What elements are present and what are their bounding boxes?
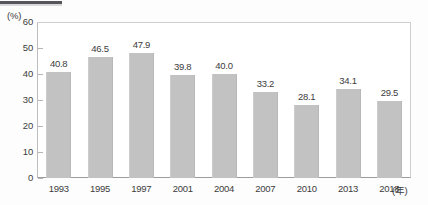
bar-value-label: 29.5 bbox=[369, 87, 409, 98]
y-axis-tick-label: 60 bbox=[0, 16, 33, 27]
bar-value-label: 28.1 bbox=[287, 91, 327, 102]
bar-value-label: 40.0 bbox=[204, 60, 244, 71]
bar bbox=[129, 53, 154, 178]
x-axis-tick-label: 1993 bbox=[39, 183, 79, 194]
y-axis-tick-label-text: 30 bbox=[5, 94, 33, 105]
y-axis-tick-label: 50 bbox=[0, 42, 33, 53]
bar bbox=[46, 72, 71, 178]
x-axis-tick-label: 2004 bbox=[204, 183, 244, 194]
bar bbox=[336, 89, 361, 178]
y-axis-tick bbox=[38, 48, 43, 49]
bar-value-label: 46.5 bbox=[80, 43, 120, 54]
bar bbox=[294, 105, 319, 178]
y-axis-tick-label: 0 bbox=[0, 172, 33, 183]
x-axis-unit-label: (年) bbox=[392, 183, 407, 197]
y-axis-tick-label-text: 50 bbox=[5, 42, 33, 53]
x-axis-tick-label: 1995 bbox=[80, 183, 120, 194]
y-axis-tick bbox=[38, 152, 43, 153]
bar-value-label: 34.1 bbox=[328, 75, 368, 86]
y-axis-tick-label: 40 bbox=[0, 68, 33, 79]
y-axis-tick-label-text: 40 bbox=[5, 68, 33, 79]
y-axis-tick-label-text: 0 bbox=[5, 172, 33, 183]
title-underline-shadow bbox=[0, 4, 62, 6]
y-axis-tick-label: 20 bbox=[0, 120, 33, 131]
bar bbox=[170, 75, 195, 178]
y-axis-tick bbox=[38, 100, 43, 101]
bar bbox=[253, 92, 278, 178]
y-axis-tick-label-text: 10 bbox=[5, 146, 33, 157]
y-axis-tick-label-text: 60 bbox=[5, 16, 33, 27]
bar bbox=[377, 101, 402, 178]
bar-value-label: 39.8 bbox=[163, 61, 203, 72]
y-axis-tick bbox=[38, 178, 43, 179]
x-axis-tick-label: 2007 bbox=[245, 183, 285, 194]
bar bbox=[212, 74, 237, 178]
bar-value-label: 33.2 bbox=[245, 78, 285, 89]
y-axis-tick-label: 10 bbox=[0, 146, 33, 157]
x-axis-tick-label: 1997 bbox=[121, 183, 161, 194]
y-axis-tick bbox=[38, 126, 43, 127]
chart-screenshot: (%) 6050403020100 40.846.547.939.840.033… bbox=[0, 0, 428, 205]
bar bbox=[88, 57, 113, 178]
x-axis-tick-label: 2013 bbox=[328, 183, 368, 194]
y-axis-tick-label: 30 bbox=[0, 94, 33, 105]
bar-value-label: 47.9 bbox=[121, 39, 161, 50]
y-axis-tick-label-text: 20 bbox=[5, 120, 33, 131]
x-axis-tick-label: 2001 bbox=[163, 183, 203, 194]
x-axis-tick-label: 2010 bbox=[287, 183, 327, 194]
y-axis-tick bbox=[38, 74, 43, 75]
bar-value-label: 40.8 bbox=[39, 58, 79, 69]
